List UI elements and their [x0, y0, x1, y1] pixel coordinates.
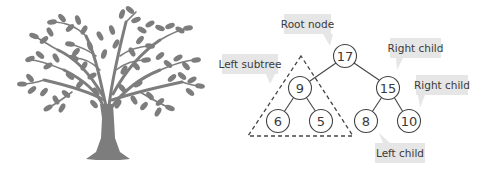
- svg-text:10: 10: [401, 114, 418, 129]
- callout-left-subtree: Left subtree: [218, 54, 281, 84]
- svg-text:6: 6: [274, 114, 282, 129]
- tree-node-5: 5: [310, 110, 333, 133]
- svg-text:15: 15: [380, 81, 397, 96]
- svg-text:Right child: Right child: [414, 79, 470, 91]
- callout-root-node: Root node: [281, 14, 334, 46]
- svg-text:17: 17: [337, 49, 354, 64]
- svg-text:Right child: Right child: [388, 42, 444, 54]
- tree-node-15: 15: [377, 77, 400, 100]
- tree-node-6: 6: [267, 110, 290, 133]
- svg-text:Root node: Root node: [281, 18, 334, 30]
- svg-text:8: 8: [362, 114, 370, 129]
- svg-text:9: 9: [296, 81, 304, 96]
- svg-text:Left subtree: Left subtree: [218, 58, 281, 70]
- svg-text:5: 5: [317, 114, 325, 129]
- tree-node-9: 9: [289, 77, 312, 100]
- tree-node-8: 8: [355, 110, 378, 133]
- binary-tree-diagram: 17 9 15 6 5 8 10 Root node: [218, 14, 469, 163]
- callout-right-child-2: Right child: [414, 75, 470, 108]
- tree-node-10: 10: [398, 110, 421, 133]
- tree-illustration: [17, 5, 205, 160]
- tree-node-root: 17: [334, 45, 357, 68]
- callout-right-child-1: Right child: [388, 38, 444, 70]
- svg-text:Left child: Left child: [376, 147, 424, 159]
- figure: 17 9 15 6 5 8 10 Root node: [0, 0, 480, 174]
- callout-left-child: Left child: [375, 133, 425, 163]
